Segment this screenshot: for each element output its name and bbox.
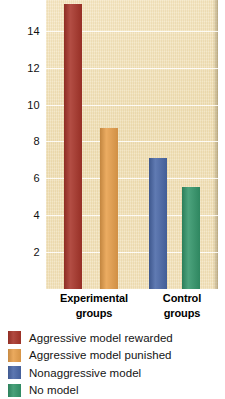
legend-label-nonaggressive-model: Nonaggressive model	[29, 367, 141, 379]
y-tick-12: 12	[0, 62, 40, 74]
bandura-bobo-doll-bar-chart: Mean imitative aggression scores 14 12 1…	[0, 0, 225, 399]
legend-item-aggressive-model-rewarded: Aggressive model rewarded	[8, 329, 225, 347]
x-axis-group-labels: Experimental groups Control groups	[46, 291, 218, 327]
legend-label-aggressive-model-punished: Aggressive model punished	[29, 349, 172, 361]
legend-item-aggressive-model-punished: Aggressive model punished	[8, 347, 225, 365]
group-label-experimental-line1: Experimental	[42, 291, 146, 306]
legend-label-aggressive-model-rewarded: Aggressive model rewarded	[29, 332, 173, 344]
y-axis-tick-labels: 14 12 10 8 6 4 2	[0, 0, 46, 289]
legend-label-no-model: No model	[29, 384, 79, 396]
legend-swatch-icon-aggressive-model-punished	[8, 349, 21, 362]
y-tick-8: 8	[0, 135, 40, 147]
group-label-control: Control groups	[142, 291, 222, 320]
y-tick-2: 2	[0, 246, 40, 258]
y-tick-10: 10	[0, 99, 40, 111]
legend: Aggressive model rewarded Aggressive mod…	[8, 329, 225, 399]
plot-area	[46, 0, 218, 289]
legend-item-no-model: No model	[8, 382, 225, 399]
bar-aggressive-model-rewarded	[64, 4, 82, 289]
y-tick-4: 4	[0, 209, 40, 221]
bar-aggressive-model-punished	[100, 128, 118, 289]
y-tick-14: 14	[0, 25, 40, 37]
bar-nonaggressive-model	[149, 158, 167, 289]
group-label-control-line2: groups	[142, 306, 222, 321]
legend-swatch-icon-no-model	[8, 384, 21, 397]
legend-swatch-icon-nonaggressive-model	[8, 366, 21, 379]
y-tick-6: 6	[0, 172, 40, 184]
group-label-experimental: Experimental groups	[42, 291, 146, 320]
group-label-experimental-line2: groups	[42, 306, 146, 321]
legend-swatch-icon-aggressive-model-rewarded	[8, 331, 21, 344]
bar-no-model	[182, 187, 200, 289]
legend-item-nonaggressive-model: Nonaggressive model	[8, 364, 225, 382]
group-label-control-line1: Control	[142, 291, 222, 306]
